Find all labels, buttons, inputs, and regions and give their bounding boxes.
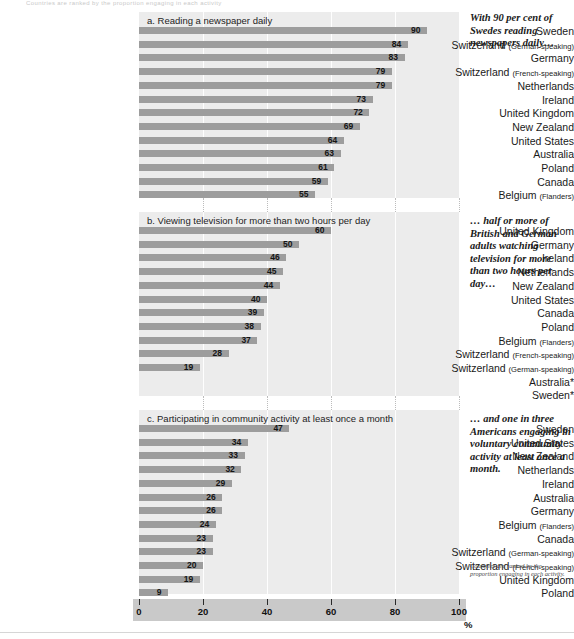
category-label: Canada bbox=[441, 534, 574, 545]
x-tick-label-80: 80 bbox=[390, 605, 401, 618]
bar-value-label: 72 bbox=[353, 107, 362, 118]
chart-row: Poland9 bbox=[0, 588, 574, 599]
chart-row: New Zealand69 bbox=[0, 122, 574, 133]
chart-row: Switzerland (French-speaking)79 bbox=[0, 67, 574, 78]
gap-gridline-80 bbox=[395, 198, 397, 212]
category-label: Switzerland (German-speaking) bbox=[441, 363, 574, 375]
category-label: United States bbox=[441, 136, 574, 147]
category-label: Netherlands bbox=[441, 81, 574, 92]
figure-footnote: Countries are ranked by the proportion e… bbox=[470, 562, 566, 577]
bar-value-label: 61 bbox=[318, 162, 327, 173]
bar bbox=[139, 178, 328, 185]
chart-row: United Kingdom72 bbox=[0, 108, 574, 119]
category-label: United Kingdom bbox=[441, 108, 574, 119]
chart-row: Switzerland (French-speaking)28 bbox=[0, 349, 574, 360]
chart-row: Canada59 bbox=[0, 177, 574, 188]
chart-row: Sweden* bbox=[0, 390, 574, 401]
chart-row: Netherlands79 bbox=[0, 81, 574, 92]
chart-row: Australia63 bbox=[0, 149, 574, 160]
bar bbox=[139, 337, 257, 344]
figure-sheet: Countries are ranked by the proportion e… bbox=[0, 0, 574, 639]
bar-value-label: 29 bbox=[216, 478, 225, 489]
bar-value-label: 59 bbox=[312, 176, 321, 187]
bar-value-label: 79 bbox=[376, 80, 385, 91]
bar-value-label: 20 bbox=[187, 560, 196, 571]
gap-gridline-20 bbox=[203, 396, 205, 410]
bar-value-label: 26 bbox=[206, 505, 215, 516]
category-label: Poland bbox=[441, 588, 574, 599]
x-axis-unit-label: % bbox=[464, 619, 472, 630]
bar-value-label: 63 bbox=[325, 148, 334, 159]
chart-row: United States40 bbox=[0, 295, 574, 306]
chart-row: Germany83 bbox=[0, 53, 574, 64]
bar bbox=[139, 254, 286, 261]
bar bbox=[139, 41, 408, 48]
gap-gridline-60 bbox=[331, 396, 333, 410]
bar-value-label: 50 bbox=[283, 239, 292, 250]
category-label: Poland bbox=[441, 322, 574, 333]
chart-row: Canada39 bbox=[0, 308, 574, 319]
bar bbox=[139, 191, 315, 198]
gap-gridline-40 bbox=[267, 396, 269, 410]
chart-row: Switzerland (German-speaking)23 bbox=[0, 547, 574, 558]
bar-value-label: 38 bbox=[245, 321, 254, 332]
pullquote-c: … and one in three Americans engaging in… bbox=[470, 413, 572, 476]
bar-value-label: 28 bbox=[213, 348, 222, 359]
bar bbox=[139, 82, 392, 89]
bar-value-label: 26 bbox=[206, 492, 215, 503]
bar bbox=[139, 227, 331, 234]
category-label: Poland bbox=[441, 163, 574, 174]
bar bbox=[139, 282, 280, 289]
gap-gridline-100 bbox=[459, 198, 461, 212]
bar bbox=[139, 27, 427, 34]
category-label: Canada bbox=[441, 177, 574, 188]
x-tick-label-60: 60 bbox=[326, 605, 337, 618]
bar-value-label: 24 bbox=[200, 519, 209, 530]
chart-row: Ireland29 bbox=[0, 479, 574, 490]
chart-row: Australia* bbox=[0, 377, 574, 388]
bar bbox=[139, 150, 341, 157]
bar-value-label: 55 bbox=[299, 189, 308, 200]
gap-gridline-20 bbox=[203, 198, 205, 212]
chart-title-c: c. Participating in community activity a… bbox=[147, 413, 393, 424]
x-tick-label-100: 100 bbox=[451, 605, 467, 618]
category-label: Belgium (Flanders) bbox=[441, 336, 574, 348]
chart-title-a: a. Reading a newspaper daily bbox=[147, 15, 272, 26]
category-label: Germany bbox=[441, 506, 574, 517]
chart-row: Germany26 bbox=[0, 506, 574, 517]
category-label: Australia bbox=[441, 493, 574, 504]
chart-row: Australia26 bbox=[0, 493, 574, 504]
category-label: Switzerland (German-speaking) bbox=[441, 547, 574, 559]
bar-value-label: 79 bbox=[376, 66, 385, 77]
bar-value-label: 60 bbox=[315, 225, 324, 236]
bar-value-label: 32 bbox=[225, 464, 234, 475]
bar-value-label: 37 bbox=[241, 335, 250, 346]
bar bbox=[139, 137, 344, 144]
cropped-header-text: Countries are ranked by the proportion e… bbox=[26, 0, 546, 6]
bar-value-label: 44 bbox=[264, 280, 273, 291]
bar-value-label: 40 bbox=[251, 294, 260, 305]
x-axis-band: 020406080100 bbox=[133, 599, 466, 621]
bar-value-label: 33 bbox=[229, 450, 238, 461]
bar bbox=[139, 309, 264, 316]
bar bbox=[139, 96, 373, 103]
bar-value-label: 69 bbox=[344, 121, 353, 132]
chart-row: Belgium (Flanders)24 bbox=[0, 520, 574, 531]
chart-row: United States64 bbox=[0, 136, 574, 147]
category-label: Germany bbox=[441, 53, 574, 64]
bar bbox=[139, 425, 289, 432]
bar-value-label: 9 bbox=[157, 587, 162, 598]
bar-value-label: 39 bbox=[248, 307, 257, 318]
bar bbox=[139, 268, 283, 275]
category-label: United States bbox=[441, 295, 574, 306]
bar-value-label: 84 bbox=[392, 39, 401, 50]
bar bbox=[139, 241, 299, 248]
pullquote-b: … half or more of British and German adu… bbox=[470, 215, 572, 291]
chart-title-b: b. Viewing television for more than two … bbox=[147, 215, 370, 226]
chart-row: Poland38 bbox=[0, 322, 574, 333]
bar-value-label: 64 bbox=[328, 135, 337, 146]
gap-gridline-80 bbox=[395, 396, 397, 410]
bar bbox=[139, 54, 405, 61]
pullquote-a: With 90 per cent of Swedes reading newsp… bbox=[470, 12, 572, 50]
chart-row: Switzerland (German-speaking)19 bbox=[0, 363, 574, 374]
